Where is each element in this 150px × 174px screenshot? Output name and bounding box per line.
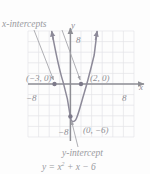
y-intercept-callout-label: y-intercept xyxy=(62,149,103,159)
point-x-intercept-left xyxy=(52,82,56,86)
x-axis-label: x xyxy=(139,83,143,92)
equation-rhs: + x − 6 xyxy=(65,162,96,172)
point-label-y-intercept: (0, −6) xyxy=(83,126,109,135)
leader-line-y-intercept xyxy=(72,121,79,147)
equation-label: y = x2 + x − 6 xyxy=(42,162,96,173)
point-x-intercept-right xyxy=(79,82,83,86)
curve-arrow-left xyxy=(52,31,54,40)
point-y-intercept xyxy=(68,114,72,118)
equation-lhs: y = x xyxy=(42,162,62,172)
x-tick-label-negative-8: −8 xyxy=(26,94,37,103)
x-tick-label-positive-8: 8 xyxy=(122,94,127,103)
point-label-x-intercept-left: (−3, 0) xyxy=(26,74,52,83)
y-axis-label: y xyxy=(71,21,75,30)
x-intercepts-callout-label: x-intercepts xyxy=(2,20,47,30)
y-tick-label-positive-8: 8 xyxy=(76,36,81,45)
point-label-x-intercept-right: (2, 0) xyxy=(90,74,110,83)
y-tick-label-negative-8: −8 xyxy=(58,128,69,137)
